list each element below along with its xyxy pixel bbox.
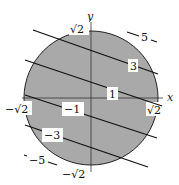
tick-label-bottom: −√2 <box>61 166 89 181</box>
svg-text:√2: √2 <box>70 23 84 36</box>
level-label-5: 5 <box>141 31 148 44</box>
level-label-minus-3: −3 <box>42 128 63 142</box>
svg-text:5: 5 <box>141 31 148 44</box>
tick-label-left: −√2 <box>4 101 32 116</box>
level-label-3: 3 <box>128 59 138 73</box>
svg-text:−1: −1 <box>64 103 80 116</box>
tick-label-top: √2 <box>69 21 89 36</box>
svg-text:−√2: −√2 <box>5 103 28 116</box>
svg-text:3: 3 <box>130 60 137 73</box>
x-axis-label: x <box>167 91 174 104</box>
svg-text:−3: −3 <box>44 129 60 142</box>
svg-text:1: 1 <box>109 88 116 101</box>
level-label-minus-5: −5 <box>29 154 45 167</box>
svg-text:−5: −5 <box>29 154 45 167</box>
level-label-minus-1: −1 <box>62 102 84 116</box>
svg-text:√2: √2 <box>147 104 161 117</box>
level-label-1: 1 <box>107 87 118 101</box>
svg-text:−√2: −√2 <box>62 168 85 181</box>
level-lines-diagram: x y √2 √2 −√2 −√2 5 3 1 −1 <box>0 0 179 185</box>
